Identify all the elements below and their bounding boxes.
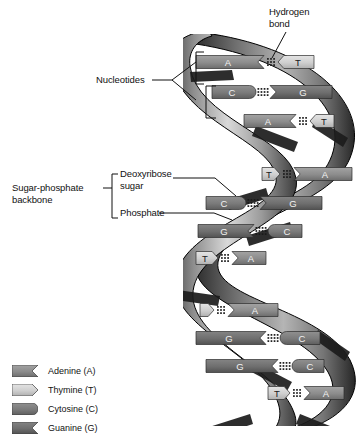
sugar-phosphate-backbone-label: Sugar-phosphate backbone: [12, 182, 83, 205]
hydrogen-bond-label: Hydrogen bond: [269, 6, 309, 29]
legend-swatch-c: [12, 403, 38, 415]
hydrogen-bond-leader: [272, 32, 286, 58]
legend-item-a: Adenine (A): [12, 362, 96, 380]
legend-swatch-g: [12, 422, 38, 434]
legend-item-c: Cytosine (C): [12, 400, 98, 418]
phosphate-label: Phosphate: [120, 207, 165, 219]
legend-item-t: Thymine (T): [12, 381, 97, 399]
backbone-bracket-arms: [112, 174, 118, 218]
dna-diagram: ATCGATTACGGCTAAGCGCTA Hydrogen bond Nucl…: [0, 0, 358, 440]
legend-label: Adenine (A): [48, 366, 96, 376]
deoxyribose-sugar-label: Deoxyribose sugar: [120, 168, 172, 191]
legend-label: Guanine (G): [48, 423, 98, 433]
legend-swatch-a: [12, 365, 38, 377]
nucleotides-label: Nucleotides: [96, 74, 145, 86]
phosphate-leader: [159, 213, 232, 220]
legend-label: Cytosine (C): [48, 404, 98, 414]
legend-label: Thymine (T): [48, 385, 97, 395]
legend-item-g: Guanine (G): [12, 419, 98, 437]
nucleotide-bracket-upper: [196, 52, 204, 84]
nucleotide-bracket-lower: [206, 86, 216, 118]
deoxyribose-leader: [173, 178, 236, 196]
nucleotides-leader-fan: [172, 62, 196, 100]
legend-swatch-t: [12, 384, 38, 396]
